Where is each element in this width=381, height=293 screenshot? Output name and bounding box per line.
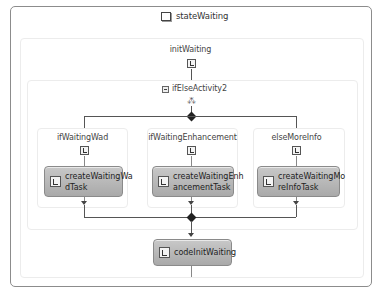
activity-createwaitingenhancementtask[interactable]: createWaitingEnhancementTask xyxy=(152,166,234,197)
connector-line xyxy=(191,266,192,277)
condition-icon xyxy=(187,146,196,155)
activity-icon xyxy=(263,176,274,187)
ifelse-title: ifElseActivity2 xyxy=(172,84,227,93)
arrow-icon xyxy=(188,233,194,237)
activity-icon xyxy=(50,176,61,187)
ifelse-icon: ⁂ xyxy=(187,96,196,106)
branch-title: elseMoreInfo xyxy=(253,133,340,142)
activity-createwaitingmoreinfotask[interactable]: createWaitingMoreInfoTask xyxy=(257,166,340,197)
connector-line xyxy=(191,69,192,80)
activity-label: codeInitWaiting xyxy=(174,247,236,258)
activity-label: createWaitingEnh xyxy=(173,171,244,182)
activity-label: dTask xyxy=(65,182,133,193)
state-title: stateWaiting xyxy=(176,11,228,21)
activity-label: reInfoTask xyxy=(278,182,345,193)
code-icon xyxy=(159,247,170,258)
branch-title: ifWaitingWad xyxy=(37,133,128,142)
split-line xyxy=(84,116,296,117)
connector-line xyxy=(84,116,85,128)
condition-icon xyxy=(80,146,89,155)
connector-line xyxy=(191,156,192,166)
state-icon xyxy=(161,12,171,21)
connector-line xyxy=(296,156,297,166)
branch-title: ifWaitingEnhancement xyxy=(147,133,238,142)
connector-line xyxy=(84,156,85,166)
activity-createwaitingwadtask[interactable]: createWaitingWadTask xyxy=(44,166,123,197)
activity-codeinitwaiting[interactable]: codeInitWaiting xyxy=(153,239,232,266)
activity-label: createWaitingWa xyxy=(65,171,133,182)
condition-icon xyxy=(292,146,301,155)
activity-label: ancementTask xyxy=(173,182,244,193)
collapse-icon[interactable] xyxy=(162,86,169,93)
sequence-title: initWaiting xyxy=(0,45,381,54)
activity-icon xyxy=(158,176,169,187)
connector-line xyxy=(84,205,85,217)
connector-line xyxy=(296,205,297,217)
event-driven-icon xyxy=(187,59,196,68)
connector-line xyxy=(296,116,297,128)
activity-label: createWaitingMo xyxy=(278,171,345,182)
